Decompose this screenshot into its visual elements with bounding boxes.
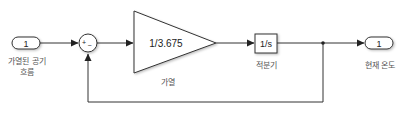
branch-point: [321, 41, 325, 45]
gain-label: 가열: [148, 77, 188, 88]
sum-plus-sign: +: [82, 39, 86, 46]
inport-number: 1: [23, 39, 28, 49]
inport-label-line2: 흐름: [2, 67, 52, 78]
inport-label-line1: 가열된 공기: [2, 56, 52, 67]
signal-feedback-to-sum[interactable]: [88, 43, 323, 102]
integrator-label: 적분기: [246, 60, 286, 71]
inport-label: 가열된 공기 흐름: [2, 56, 52, 78]
integrator-value: 1/s: [260, 39, 273, 49]
sum-minus-sign: −: [87, 42, 91, 49]
block-diagram-canvas: 1 + − 1/3.675 1/s 1: [0, 0, 404, 115]
gain-value: 1/3.675: [149, 38, 183, 49]
outport-number: 1: [376, 39, 381, 49]
outport-label: 현재 온도: [355, 60, 404, 71]
